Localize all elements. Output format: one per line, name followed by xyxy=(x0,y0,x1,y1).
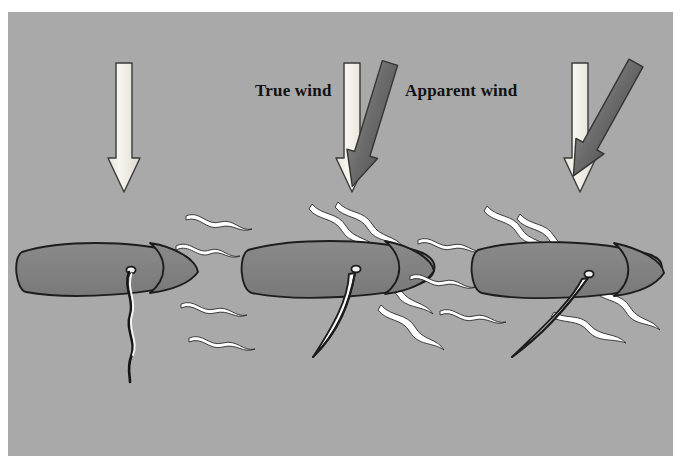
mast-2 xyxy=(351,266,360,273)
figure-root: True wind Apparent wind xyxy=(0,0,691,474)
apparent-wind-label: Apparent wind xyxy=(405,82,517,99)
wind-diagram-canvas xyxy=(0,0,691,474)
true-wind-label: True wind xyxy=(255,82,332,99)
mast-3 xyxy=(584,271,593,278)
